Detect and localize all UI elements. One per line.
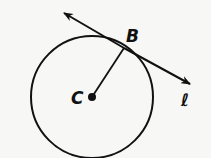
label-tangent-point: B <box>126 26 139 46</box>
label-line: ℓ <box>180 90 189 110</box>
tangent-line <box>124 48 190 84</box>
tangent-line <box>64 13 124 48</box>
radius-segment <box>92 48 124 97</box>
tangent-circle-diagram: C B ℓ <box>0 0 211 158</box>
label-center: C <box>71 88 84 108</box>
center-point <box>88 93 96 101</box>
